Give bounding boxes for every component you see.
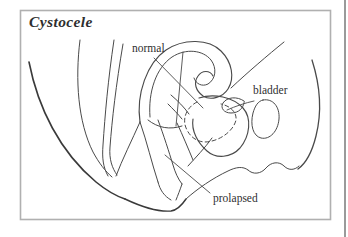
rectum-oval <box>252 100 279 139</box>
normal-leader-line-2 <box>176 52 183 126</box>
bottom-right-waves <box>248 163 299 173</box>
right-outer-curve <box>298 60 319 169</box>
anterior-vaginal-wall <box>116 122 140 176</box>
vaginal-canal-line-3 <box>177 123 193 160</box>
label-normal: normal <box>132 42 165 54</box>
perineal-detail-2 <box>176 184 182 200</box>
label-bladder: bladder <box>253 84 287 96</box>
prolapsed-leader-line <box>165 155 210 193</box>
abdominal-wall-curve <box>29 62 125 199</box>
perineal-detail-1 <box>158 182 171 200</box>
pelvic-wall-curve-1 <box>78 40 112 177</box>
vaginal-canal-line-1 <box>140 122 158 182</box>
rectal-wall-diagonal <box>231 42 284 88</box>
cervix-canal-line-2 <box>168 104 182 119</box>
figure-title: Cystocele <box>29 13 93 31</box>
cervix-canal-line-1 <box>171 95 189 114</box>
label-prolapsed: prolapsed <box>213 192 258 204</box>
pelvic-wall-curve-2 <box>103 40 114 176</box>
figure-panel: Cystocele normal bladder prolapsed <box>0 0 348 237</box>
perineum-bottom-curve <box>125 199 186 211</box>
pelvic-wall-curve-3 <box>110 44 123 175</box>
vaginal-canal-line-2 <box>158 120 182 184</box>
cystocele-diagram <box>0 0 348 237</box>
